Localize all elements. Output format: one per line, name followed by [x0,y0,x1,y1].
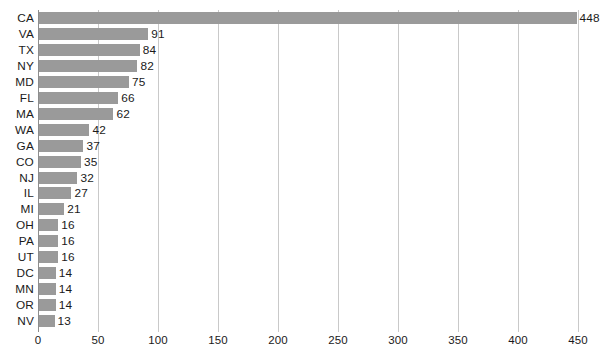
bar-value-label: 16 [61,235,75,247]
bar-value-label: 62 [116,108,130,120]
bar-row: MI21 [0,203,614,219]
bar-value-label: 16 [61,219,75,231]
bar [39,12,577,24]
bar-value-label: 14 [59,267,73,279]
bar-value-label: 42 [92,124,106,136]
x-tick-label: 100 [148,334,168,346]
bar [39,267,56,279]
category-label: UT [0,251,34,263]
bar-row: FL66 [0,92,614,108]
bar [39,140,83,152]
bar-row: TX84 [0,44,614,60]
bar [39,299,56,311]
category-label: NV [0,315,34,327]
bar-value-label: 75 [132,76,146,88]
plot-area: CA448VA91TX84NY82MD75FL66MA62WA42GA37CO3… [0,0,614,361]
category-label: MA [0,108,34,120]
bar [39,187,71,199]
bar-value-label: 91 [151,28,165,40]
bar-value-label: 32 [80,172,94,184]
bar [39,235,58,247]
bar-row: VA91 [0,28,614,44]
bar-row: DC14 [0,267,614,283]
category-label: NJ [0,172,34,184]
bar-value-label: 16 [61,251,75,263]
bar-row: OR14 [0,299,614,315]
x-tick-label: 200 [268,334,288,346]
bar-value-label: 14 [59,299,73,311]
bar [39,156,81,168]
bar-row: PA16 [0,235,614,251]
bar-row: CA448 [0,12,614,28]
bar [39,203,64,215]
bar-row: WA42 [0,124,614,140]
bar-value-label: 13 [58,315,72,327]
category-label: NY [0,60,34,72]
bar-row: MA62 [0,108,614,124]
bar [39,44,140,56]
bar-row: NY82 [0,60,614,76]
bar [39,28,148,40]
x-tick-label: 0 [35,334,42,346]
category-label: DC [0,267,34,279]
bar-value-label: 14 [59,283,73,295]
bar-value-label: 37 [86,140,100,152]
bar-row: NJ32 [0,172,614,188]
bar [39,60,137,72]
bar-row: IL27 [0,187,614,203]
bar [39,124,89,136]
x-tick-label: 350 [448,334,468,346]
bar-row: MN14 [0,283,614,299]
category-label: PA [0,235,34,247]
category-label: MN [0,283,34,295]
bar-value-label: 35 [84,156,98,168]
category-label: VA [0,28,34,40]
category-label: GA [0,140,34,152]
horizontal-bar-chart: CA448VA91TX84NY82MD75FL66MA62WA42GA37CO3… [0,0,614,361]
category-label: WA [0,124,34,136]
x-tick-label: 50 [92,334,105,346]
bar [39,251,58,263]
bar-row: NV13 [0,315,614,331]
bar [39,76,129,88]
category-label: FL [0,92,34,104]
category-label: IL [0,187,34,199]
bar-value-label: 27 [74,187,88,199]
x-tick-label: 250 [328,334,348,346]
bar [39,172,77,184]
bar-row: GA37 [0,140,614,156]
bar [39,315,55,327]
category-label: OR [0,299,34,311]
bar-value-label: 21 [67,203,81,215]
category-label: CO [0,156,34,168]
bar-value-label: 84 [143,44,157,56]
x-tick-label: 400 [508,334,528,346]
x-tick-label: 150 [208,334,228,346]
bar [39,108,113,120]
bar-value-label: 66 [121,92,135,104]
bar-row: MD75 [0,76,614,92]
bar-row: CO35 [0,156,614,172]
x-tick-label: 300 [388,334,408,346]
x-tick-label: 450 [568,334,588,346]
bar [39,92,118,104]
bar [39,219,58,231]
category-label: OH [0,219,34,231]
bar-row: OH16 [0,219,614,235]
bar-value-label: 82 [140,60,154,72]
bar-row: UT16 [0,251,614,267]
bar [39,283,56,295]
category-label: CA [0,12,34,24]
bar-value-label: 448 [580,12,600,24]
category-label: TX [0,44,34,56]
category-label: MD [0,76,34,88]
category-label: MI [0,203,34,215]
